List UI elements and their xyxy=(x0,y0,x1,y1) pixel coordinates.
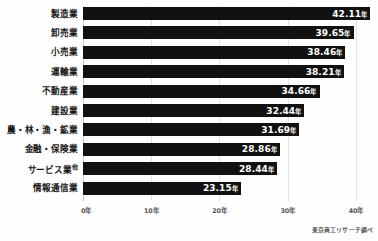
category-label: 小売業 xyxy=(51,48,78,57)
bar-value-label: 38.46年 xyxy=(307,48,342,57)
bar-value-label: 31.69年 xyxy=(261,125,296,134)
bar-value-unit: 年 xyxy=(290,126,296,133)
bar-value-label: 42.11年 xyxy=(332,9,367,18)
x-axis-tick-label: 30年 xyxy=(280,206,295,215)
category-label: 製造業 xyxy=(51,9,78,18)
bar: 39.65年 xyxy=(83,26,354,39)
bar: 42.11年 xyxy=(83,7,370,20)
bar-row: 運輸業38.21年 xyxy=(83,65,373,78)
bar-value-label: 23.15年 xyxy=(203,184,238,193)
bar-chart: 製造業42.11年卸売業39.65年小売業38.46年運輸業38.21年不動産業… xyxy=(0,0,378,241)
category-label: 農・林・漁・鉱業 xyxy=(7,126,78,135)
bar-value-unit: 年 xyxy=(268,165,274,172)
bar-value-label: 39.65年 xyxy=(315,28,350,37)
bar-row: 金融・保険業28.86年 xyxy=(83,143,373,156)
bar: 28.86年 xyxy=(83,143,280,156)
bar-value-label: 38.21年 xyxy=(306,67,341,76)
bar-value-unit: 年 xyxy=(271,146,277,153)
bar: 23.15年 xyxy=(83,182,241,195)
x-axis-tick-label: 20年 xyxy=(212,206,227,215)
bar-value-label: 32.44年 xyxy=(266,106,301,115)
bar-value-label: 28.86年 xyxy=(242,145,277,154)
bar: 31.69年 xyxy=(83,123,299,136)
source-note: 東京商工リサーチ調べ xyxy=(312,225,373,234)
bar: 38.46年 xyxy=(83,46,345,59)
bar-row: 小売業38.46年 xyxy=(83,46,373,59)
category-label: 卸売業 xyxy=(51,29,78,38)
plot-area: 製造業42.11年卸売業39.65年小売業38.46年運輸業38.21年不動産業… xyxy=(83,6,373,201)
bar-row: 情報通信業23.15年 xyxy=(83,182,373,195)
bar-row: 農・林・漁・鉱業31.69年 xyxy=(83,123,373,136)
bar-value-unit: 年 xyxy=(336,49,342,56)
category-label: 金融・保険業 xyxy=(25,145,78,154)
category-label: 情報通信業 xyxy=(33,184,78,193)
category-label: 建設業 xyxy=(51,106,78,115)
bar-row: 卸売業39.65年 xyxy=(83,26,373,39)
bar-row: 製造業42.11年 xyxy=(83,7,373,20)
x-axis: 0年10年20年30年40年 xyxy=(83,206,373,218)
x-axis-tick-label: 0年 xyxy=(81,206,91,215)
bar-row: 建設業32.44年 xyxy=(83,104,373,117)
category-label: 不動産業 xyxy=(42,87,78,96)
bar-value-label: 28.44年 xyxy=(239,164,274,173)
bar: 32.44年 xyxy=(83,104,304,117)
bar: 28.44年 xyxy=(83,162,277,175)
bar-row: 不動産業34.66年 xyxy=(83,85,373,98)
bar-value-unit: 年 xyxy=(335,68,341,75)
category-label: 運輸業 xyxy=(51,67,78,76)
bar-value-unit: 年 xyxy=(232,185,238,192)
bar: 38.21年 xyxy=(83,65,344,78)
x-axis-tick-label: 40年 xyxy=(349,206,364,215)
bar: 34.66年 xyxy=(83,85,320,98)
bar-value-label: 34.66年 xyxy=(281,87,316,96)
bar-value-unit: 年 xyxy=(361,10,367,17)
bar-row: サービス業他28.44年 xyxy=(83,162,373,175)
category-label-superscript: 他 xyxy=(72,162,78,169)
bar-value-unit: 年 xyxy=(344,29,350,36)
x-axis-tick-label: 10年 xyxy=(144,206,159,215)
category-label: サービス業他 xyxy=(28,163,78,173)
bar-value-unit: 年 xyxy=(295,107,301,114)
bar-value-unit: 年 xyxy=(310,88,316,95)
